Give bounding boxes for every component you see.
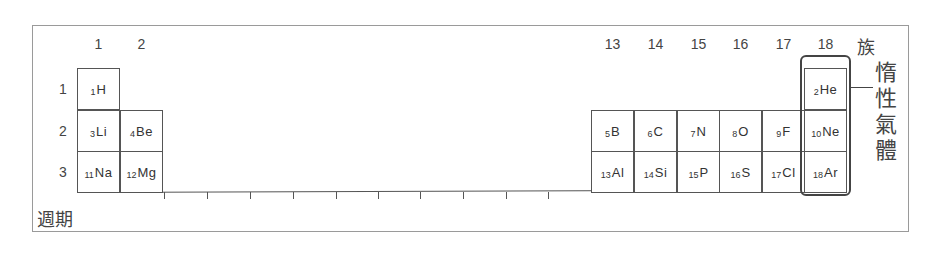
group-label-15: 15 <box>677 36 720 52</box>
element-cell-N: 7N <box>677 110 720 152</box>
noble-gas-label: 惰 性 氣 體 <box>873 60 899 164</box>
atomic-number: 5 <box>605 129 610 139</box>
period-label-1: 1 <box>56 81 70 97</box>
axis-tick <box>336 192 337 199</box>
period-axis-label: 週期 <box>37 205 73 231</box>
axis-tick <box>420 192 421 199</box>
group-label-2: 2 <box>120 36 163 52</box>
axis-tick <box>506 192 507 199</box>
element-symbol: Cl <box>782 165 795 180</box>
element-symbol: P <box>699 165 708 180</box>
group-label-1: 1 <box>77 36 120 52</box>
element-cell-Be: 4Be <box>120 110 163 152</box>
element-cell-S: 16S <box>719 151 762 193</box>
element-symbol: Al <box>612 165 625 180</box>
group-label-14: 14 <box>634 36 677 52</box>
axis-tick <box>164 192 165 199</box>
axis-tick <box>250 192 251 199</box>
axis-tick <box>463 192 464 199</box>
atomic-number: 17 <box>771 170 781 180</box>
element-cell-H: 1H <box>77 68 120 110</box>
axis-tick <box>378 192 379 199</box>
element-cell-Li: 3Li <box>77 110 120 152</box>
element-cell-Mg: 12Mg <box>120 151 163 193</box>
element-symbol: S <box>741 165 750 180</box>
atomic-number: 14 <box>644 170 654 180</box>
element-symbol: Na <box>95 165 113 180</box>
element-symbol: C <box>654 124 664 139</box>
element-cell-O: 8O <box>719 110 762 152</box>
group-axis-label: 族 <box>857 33 875 59</box>
atomic-number: 12 <box>126 170 136 180</box>
element-cell-C: 6C <box>634 110 677 152</box>
group-label-13: 13 <box>591 36 634 52</box>
element-symbol: O <box>738 124 749 139</box>
atomic-number: 13 <box>601 170 611 180</box>
axis-tick <box>207 192 208 199</box>
element-cell-Na: 11Na <box>77 151 120 193</box>
element-cell-Cl: 17Cl <box>762 151 805 193</box>
element-cell-Si: 14Si <box>634 151 677 193</box>
element-cell-Al: 13Al <box>591 151 634 193</box>
element-symbol: B <box>611 124 620 139</box>
element-symbol: Li <box>96 124 107 139</box>
period-label-2: 2 <box>56 123 70 139</box>
atomic-number: 7 <box>691 129 696 139</box>
group-label-17: 17 <box>762 36 805 52</box>
element-symbol: Mg <box>137 165 156 180</box>
noble-gas-label-char: 性 <box>873 86 899 112</box>
axis-tick <box>293 192 294 199</box>
noble-gas-highlight-box <box>800 55 851 196</box>
element-cell-F: 9F <box>762 110 805 152</box>
noble-gas-label-char: 氣 <box>873 112 899 138</box>
atomic-number: 3 <box>90 129 95 139</box>
atomic-number: 1 <box>91 87 96 97</box>
element-symbol: H <box>97 82 107 97</box>
element-symbol: Si <box>655 165 668 180</box>
atomic-number: 15 <box>688 170 698 180</box>
element-symbol: N <box>697 124 707 139</box>
group-label-18: 18 <box>804 36 847 52</box>
element-cell-P: 15P <box>677 151 720 193</box>
group-label-16: 16 <box>719 36 762 52</box>
noble-gas-label-char: 惰 <box>873 60 899 86</box>
element-symbol: Be <box>136 124 153 139</box>
atomic-number: 6 <box>648 129 653 139</box>
atomic-number: 4 <box>130 129 135 139</box>
element-symbol: F <box>782 124 790 139</box>
atomic-number: 9 <box>776 129 781 139</box>
atomic-number: 11 <box>85 170 94 180</box>
period-label-3: 3 <box>56 164 70 180</box>
axis-tick <box>548 192 549 199</box>
atomic-number: 16 <box>730 170 740 180</box>
element-cell-B: 5B <box>591 110 634 152</box>
atomic-number: 8 <box>732 129 737 139</box>
noble-gas-leader-line <box>851 87 873 88</box>
noble-gas-label-char: 體 <box>873 138 899 164</box>
